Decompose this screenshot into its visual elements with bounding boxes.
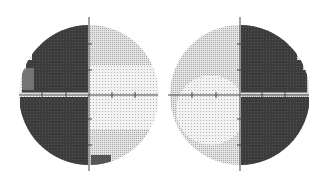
right-eye-field-plot bbox=[161, 0, 322, 183]
left-eye-field-plot bbox=[0, 0, 161, 183]
